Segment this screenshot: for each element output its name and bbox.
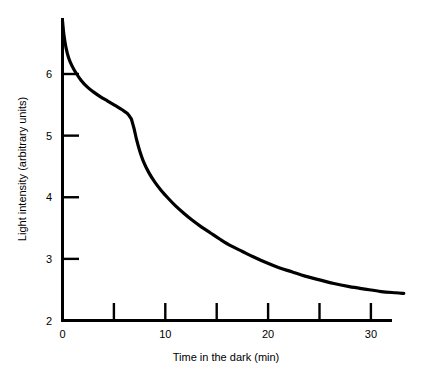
- x-tick-label-0: 0: [59, 328, 65, 340]
- x-tick-label-30: 30: [365, 328, 377, 340]
- x-tick-label-10: 10: [159, 328, 171, 340]
- x-tick-label-20: 20: [262, 328, 274, 340]
- chart-figure: 23456 Light intensity (arbitrary units) …: [0, 0, 429, 376]
- y-axis-title: Light intensity (arbitrary units): [16, 97, 28, 241]
- x-axis-title: Time in the dark (min): [173, 351, 280, 363]
- y-tick-label-6: 6: [46, 68, 52, 80]
- dark-adaptation-chart: 23456 Light intensity (arbitrary units) …: [0, 0, 429, 376]
- y-tick-label-4: 4: [46, 191, 52, 203]
- y-tick-label-5: 5: [46, 130, 52, 142]
- y-tick-label-3: 3: [46, 253, 52, 265]
- y-tick-label-2: 2: [46, 315, 52, 327]
